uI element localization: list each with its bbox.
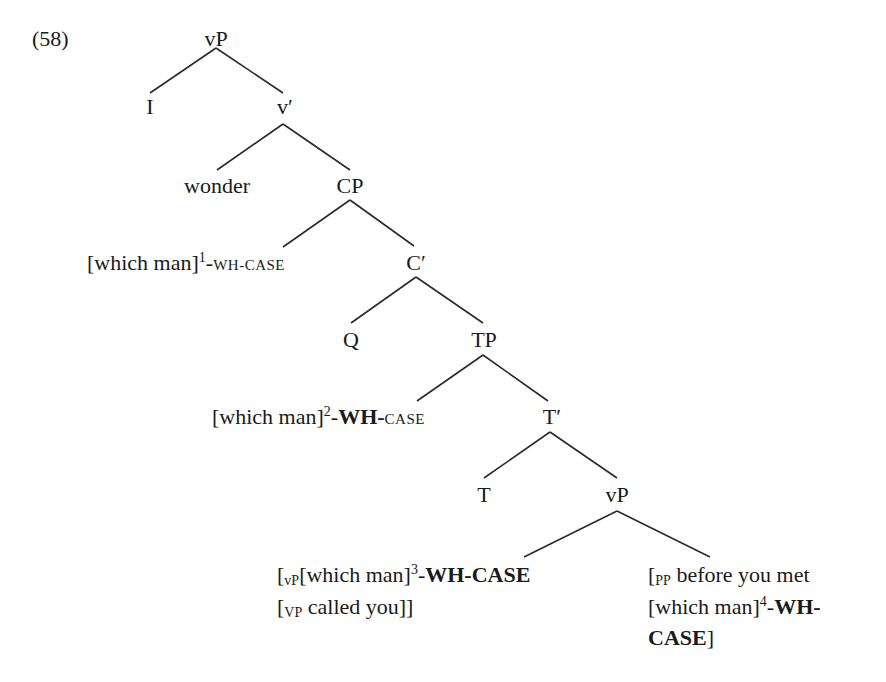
node-spec-TP: [which man]2-WH-CASE xyxy=(212,406,425,431)
node-C-bar: C′ xyxy=(406,252,426,274)
vP-left-line2: [VP called you]] xyxy=(277,593,530,625)
PP-close-bracket: ] xyxy=(707,625,714,650)
PP-index: 4 xyxy=(760,594,767,609)
node-PP-right-leaf: [PP before you met [which man]4-WH- CASE… xyxy=(648,561,821,653)
edge-vP-left xyxy=(524,511,617,557)
node-CP: CP xyxy=(337,175,364,197)
vP-left-features: WH-CASE xyxy=(425,562,530,587)
spec-CP-phrase: [which man] xyxy=(87,250,199,275)
spec-TP-feature-wh: WH xyxy=(338,404,377,429)
node-v-bar: v′ xyxy=(277,96,293,118)
edge-Cbar-Q xyxy=(351,277,416,323)
PP-line1: [PP before you met xyxy=(648,561,821,593)
node-wonder: wonder xyxy=(184,175,250,197)
vP-left-vp-text: called you]] xyxy=(302,594,413,619)
edge-vP-vbar xyxy=(216,48,283,93)
edge-CP-Cbar xyxy=(350,200,414,246)
spec-TP-index: 2 xyxy=(324,404,331,419)
node-vP-left-leaf: [vP[which man]3-WH-CASE [VP called you]] xyxy=(277,561,530,624)
edge-Tbar-vP xyxy=(550,432,617,478)
spec-TP-dash2: - xyxy=(377,404,384,429)
spec-TP-phrase: [which man] xyxy=(212,404,324,429)
spec-CP-index: 1 xyxy=(199,250,206,265)
node-vP-low: vP xyxy=(605,484,628,506)
node-Q: Q xyxy=(343,329,359,351)
PP-feature-wh: WH- xyxy=(774,594,820,619)
edge-vbar-CP xyxy=(283,124,350,170)
edge-Tbar-T xyxy=(484,432,550,478)
PP-line3: CASE] xyxy=(648,624,821,653)
edge-vbar-wonder xyxy=(217,124,283,170)
edge-vP-I xyxy=(150,48,216,93)
PP-text: before you met xyxy=(671,562,810,587)
spec-CP-feature-wh: WH xyxy=(213,257,239,273)
label-PP: PP xyxy=(655,573,671,588)
node-I: I xyxy=(146,96,153,118)
edge-TP-spec xyxy=(417,355,483,401)
node-spec-CP: [which man]1-WH-CASE xyxy=(87,252,285,277)
edge-CP-spec xyxy=(283,200,350,247)
PP-phrase: [which man] xyxy=(648,594,760,619)
edge-vP-PP xyxy=(617,511,710,557)
vP-left-index: 3 xyxy=(411,562,418,577)
PP-line2: [which man]4-WH- xyxy=(648,593,821,625)
spec-CP-feature-case: CASE xyxy=(245,257,285,273)
PP-feature-case: CASE xyxy=(648,625,707,650)
spec-TP-feature-case: CASE xyxy=(385,411,425,427)
node-T-bar: T′ xyxy=(543,406,561,428)
label-vP: vP xyxy=(284,573,299,588)
node-T: T xyxy=(477,484,490,506)
edge-Cbar-TP xyxy=(416,277,483,323)
node-TP: TP xyxy=(471,329,497,351)
vP-left-phrase: [which man] xyxy=(299,562,411,587)
example-number: (58) xyxy=(32,28,69,50)
label-VP: VP xyxy=(284,605,302,620)
edge-TP-Tbar xyxy=(483,355,548,401)
node-vP-root: vP xyxy=(204,28,227,50)
vP-left-line1: [vP[which man]3-WH-CASE xyxy=(277,561,530,593)
